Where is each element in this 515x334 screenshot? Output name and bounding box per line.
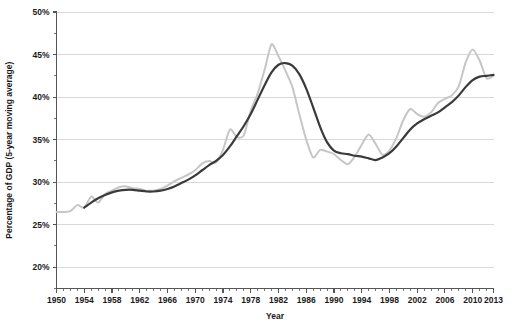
x-tick-label: 2013	[484, 295, 503, 305]
gdp-chart-figure: 20%25%30%35%40%45%50% 195019541958196219…	[0, 0, 515, 334]
x-axis-tick-labels: 1950195419581962196619701974197819821986…	[47, 295, 503, 305]
y-tick-label: 30%	[32, 177, 49, 187]
x-tick-label: 1962	[130, 295, 149, 305]
y-tick-label: 35%	[32, 135, 49, 145]
x-tick-label: 1982	[269, 295, 288, 305]
x-tick-label: 1970	[186, 295, 205, 305]
y-tick-label: 25%	[32, 220, 49, 230]
chart-background	[0, 0, 515, 334]
chart-plot-area: 20%25%30%35%40%45%50% 195019541958196219…	[0, 0, 515, 334]
x-tick-label: 1974	[214, 295, 233, 305]
y-tick-label: 50%	[32, 7, 49, 17]
x-tick-label: 1998	[380, 295, 399, 305]
y-tick-label: 45%	[32, 50, 49, 60]
x-tick-label: 2002	[408, 295, 427, 305]
x-tick-label: 1978	[241, 295, 260, 305]
x-tick-label: 1958	[103, 295, 122, 305]
x-tick-label: 2010	[463, 295, 482, 305]
y-tick-label: 40%	[32, 92, 49, 102]
x-tick-label: 1954	[75, 295, 94, 305]
y-axis-title: Percentage of GDP (5-year moving average…	[4, 62, 14, 239]
x-tick-label: 1950	[47, 295, 66, 305]
x-tick-label: 1966	[158, 295, 177, 305]
x-tick-label: 1990	[324, 295, 343, 305]
x-tick-label: 1986	[297, 295, 316, 305]
x-tick-label: 2006	[435, 295, 454, 305]
y-tick-label: 20%	[32, 262, 49, 272]
x-tick-label: 1994	[352, 295, 371, 305]
x-axis-title: Year	[266, 311, 285, 321]
